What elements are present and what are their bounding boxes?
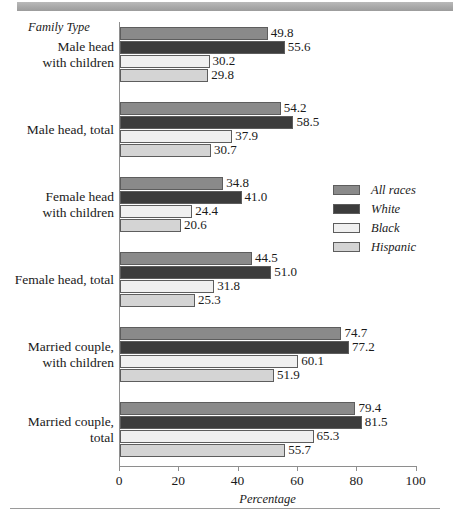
bar-value-label: 29.8 (208, 68, 234, 82)
legend-label: Hispanic (371, 239, 416, 255)
x-axis-line (119, 466, 416, 467)
bar-hispanic[interactable] (120, 219, 181, 232)
x-axis-title: Percentage (119, 492, 416, 507)
legend-label: White (371, 201, 400, 217)
group-label: Female headwith children (0, 189, 114, 221)
bar-all-races[interactable] (120, 102, 281, 115)
bar-value-label: 34.8 (223, 176, 249, 190)
legend-label: All races (371, 182, 416, 198)
bar-group: Married couple,with children74.777.260.1… (0, 327, 453, 383)
bar-all-races[interactable] (120, 327, 341, 340)
bar-hispanic[interactable] (120, 144, 211, 157)
bar-value-label: 74.7 (341, 326, 367, 340)
bar-white[interactable] (120, 41, 285, 54)
bar-value-label: 58.5 (293, 115, 319, 129)
bar-value-label: 24.4 (192, 204, 218, 218)
group-label-line1: Male head (0, 39, 114, 55)
bar-hispanic[interactable] (120, 294, 195, 307)
group-label-line2: with children (0, 205, 114, 221)
bar-black[interactable] (120, 205, 192, 218)
bar-value-label: 44.5 (252, 251, 278, 265)
bar-hispanic[interactable] (120, 444, 285, 457)
bar-hispanic[interactable] (120, 69, 208, 82)
bar-value-label: 51.0 (271, 265, 297, 279)
group-label-line1: Married couple, (0, 339, 114, 355)
bar-group: Male headwith children49.855.630.229.8 (0, 27, 453, 83)
bar-value-label: 30.7 (211, 143, 237, 157)
group-label-line2: with children (0, 355, 114, 371)
bar-value-label: 20.6 (181, 218, 207, 232)
x-tick-label-100: 100 (396, 473, 436, 489)
bar-white[interactable] (120, 191, 242, 204)
bar-white[interactable] (120, 266, 271, 279)
group-label: Married couple,total (0, 414, 114, 446)
x-tick-80 (356, 466, 357, 471)
bar-value-label: 54.2 (281, 101, 307, 115)
bar-all-races[interactable] (120, 177, 223, 190)
x-tick-40 (238, 466, 239, 471)
group-label-line1: Married couple, (0, 414, 114, 430)
bar-white[interactable] (120, 116, 293, 129)
bar-all-races[interactable] (120, 27, 268, 40)
bar-hispanic[interactable] (120, 369, 274, 382)
bar-all-races[interactable] (120, 252, 252, 265)
bar-chart: Family Type 020406080100 Male headwith c… (0, 0, 453, 525)
bar-black[interactable] (120, 355, 298, 368)
x-tick-label-60: 60 (277, 473, 317, 489)
bar-group: Married couple,total79.481.565.355.7 (0, 402, 453, 458)
group-label-line1: Female head (0, 189, 114, 205)
group-label-line2: total (0, 430, 114, 446)
legend-swatch-icon (333, 185, 360, 195)
group-label: Married couple,with children (0, 339, 114, 371)
legend-label: Black (371, 220, 399, 236)
y-axis-line (119, 22, 120, 466)
bar-value-label: 51.9 (274, 368, 300, 382)
x-tick-20 (178, 466, 179, 471)
group-label-line1: Female head, total (0, 272, 114, 288)
bar-value-label: 25.3 (195, 293, 221, 307)
bar-value-label: 30.2 (210, 54, 236, 68)
group-label-line2: with children (0, 55, 114, 71)
bar-value-label: 37.9 (232, 129, 258, 143)
x-tick-0 (119, 466, 120, 471)
bar-black[interactable] (120, 55, 210, 68)
x-tick-100 (416, 466, 417, 471)
bar-value-label: 49.8 (268, 26, 294, 40)
bar-group: Male head, total54.258.537.930.7 (0, 102, 453, 158)
group-label-line1: Male head, total (0, 122, 114, 138)
legend-swatch-icon (333, 204, 360, 214)
group-label: Male head, total (0, 122, 114, 138)
group-label: Male headwith children (0, 39, 114, 71)
bar-value-label: 81.5 (362, 415, 388, 429)
bar-all-races[interactable] (120, 402, 355, 415)
x-tick-60 (297, 466, 298, 471)
bar-value-label: 79.4 (355, 401, 381, 415)
group-label: Female head, total (0, 272, 114, 288)
x-tick-label-20: 20 (158, 473, 198, 489)
x-tick-label-80: 80 (336, 473, 376, 489)
bar-value-label: 55.6 (285, 40, 311, 54)
bar-value-label: 31.8 (214, 279, 240, 293)
x-tick-label-0: 0 (99, 473, 139, 489)
bar-black[interactable] (120, 430, 314, 443)
x-tick-label-40: 40 (218, 473, 258, 489)
bar-value-label: 55.7 (285, 443, 311, 457)
legend-swatch-icon (333, 242, 360, 252)
legend-swatch-icon (333, 223, 360, 233)
bottom-divider (10, 508, 440, 509)
bar-value-label: 41.0 (242, 190, 268, 204)
bar-value-label: 60.1 (298, 354, 324, 368)
bar-value-label: 77.2 (349, 340, 375, 354)
bar-group: Female head, total44.551.031.825.3 (0, 252, 453, 308)
bar-value-label: 65.3 (314, 429, 340, 443)
